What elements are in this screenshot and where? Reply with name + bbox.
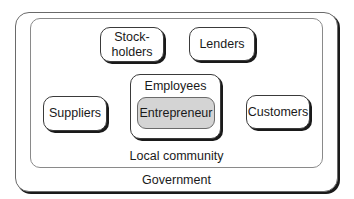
stockholders-box: Stock- holders <box>100 27 164 62</box>
employees-label: Employees <box>131 79 220 93</box>
entrepreneur-box: Entrepreneur <box>137 97 215 129</box>
entrepreneur-label: Entrepreneur <box>140 106 213 120</box>
local-community-label: Local community <box>30 149 323 163</box>
stockholders-label-line2: holders <box>112 45 153 60</box>
employees-box: Employees Entrepreneur <box>130 74 221 139</box>
government-label: Government <box>15 173 338 187</box>
lenders-box: Lenders <box>189 27 255 61</box>
stockholders-label-line1: Stock- <box>112 30 153 45</box>
suppliers-box: Suppliers <box>43 96 107 131</box>
customers-box: Customers <box>246 95 310 129</box>
suppliers-label: Suppliers <box>49 106 101 121</box>
customers-label: Customers <box>248 105 308 120</box>
lenders-label: Lenders <box>199 37 244 52</box>
